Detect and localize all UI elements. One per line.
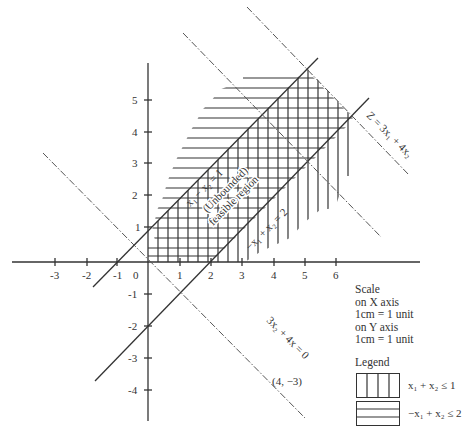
svg-text:4: 4 <box>132 126 138 138</box>
iso-zero-label: 3x₂ + 4x = 0 <box>265 314 313 362</box>
scale-y-line: on Y axis <box>355 321 414 334</box>
point-label: (4, −3) <box>272 375 302 388</box>
svg-text:4: 4 <box>271 269 277 281</box>
svg-text:3: 3 <box>132 157 138 169</box>
horizontal-hatch-swatch <box>356 401 400 426</box>
svg-text:-1: -1 <box>128 288 137 300</box>
constraint-line-a <box>93 58 318 287</box>
scale-y-value: 1cm = 1 unit <box>355 333 414 346</box>
svg-text:-3: -3 <box>50 269 60 281</box>
legend-label-horizontal: −x₁ + x₂ ≤ 2 <box>408 407 462 419</box>
svg-text:1: 1 <box>135 221 141 233</box>
legend-item-vertical: x₁ + x₂ ≤ 1 <box>356 373 466 401</box>
svg-text:3: 3 <box>239 269 245 281</box>
horizontal-hatch <box>140 78 360 256</box>
legend-label-vertical: x₁ + x₂ ≤ 1 <box>408 379 455 391</box>
legend-title: Legend <box>355 356 389 368</box>
svg-text:5: 5 <box>302 269 308 281</box>
svg-text:-2: -2 <box>128 320 137 332</box>
legend-item-horizontal: −x₁ + x₂ ≤ 2 <box>356 401 466 428</box>
constraint-line-b <box>95 98 369 381</box>
scale-x-value: 1cm = 1 unit <box>355 308 414 321</box>
scale-note: Scale on X axis 1cm = 1 unit on Y axis 1… <box>355 283 414 346</box>
svg-text:-2: -2 <box>82 269 91 281</box>
svg-text:-1: -1 <box>113 269 122 281</box>
svg-text:0: 0 <box>133 269 139 281</box>
svg-text:2: 2 <box>132 189 138 201</box>
svg-text:1: 1 <box>177 269 183 281</box>
svg-text:-4: -4 <box>128 384 138 396</box>
line-b-label: −x₁ + x₂ = 2 <box>243 206 290 253</box>
svg-text:-3: -3 <box>128 352 138 364</box>
svg-text:2: 2 <box>208 269 214 281</box>
objective-label: Z = 3x₁ + 4x₂ <box>365 109 416 160</box>
scale-title: Scale <box>355 283 414 296</box>
vertical-hatch-swatch <box>356 373 400 398</box>
svg-text:5: 5 <box>132 94 138 106</box>
x-tick-labels: -3 -2 -1 0 1 2 3 4 5 6 <box>50 269 339 281</box>
svg-text:6: 6 <box>333 269 339 281</box>
scale-x-line: on X axis <box>355 296 414 309</box>
iso-line-zero <box>43 153 305 418</box>
